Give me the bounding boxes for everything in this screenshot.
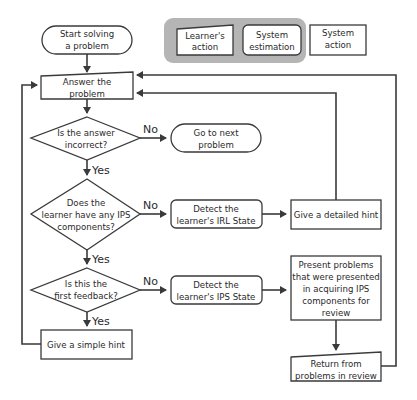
flowchart: Learner's action System estimation Start…: [0, 0, 417, 400]
svg-text:Answer the: Answer the: [63, 77, 112, 87]
node-label: Does the: [67, 198, 105, 208]
edge-label-no: No: [143, 275, 158, 288]
legend-label: System: [256, 30, 288, 40]
node-label: problems in review: [295, 371, 377, 381]
edge-label-yes: Yes: [91, 253, 110, 266]
svg-text:Present problems: Present problems: [298, 260, 374, 270]
node-label: Is this the: [65, 279, 107, 289]
svg-text:learner have any IPS: learner have any IPS: [42, 210, 131, 220]
svg-text:Start solving: Start solving: [60, 29, 114, 39]
node-label: Go to next: [193, 128, 239, 138]
node-label: Give a detailed hint: [294, 210, 379, 220]
node-label: Answer the: [63, 77, 112, 87]
svg-text:learner's IRL State: learner's IRL State: [177, 216, 256, 226]
node-q-incorrect: Is the answer incorrect?: [31, 117, 140, 160]
edge-label-no: No: [143, 123, 158, 136]
node-label: learner's IRL State: [177, 216, 256, 226]
node-label: components?: [57, 222, 115, 232]
node-q-first: Is this the first feedback?: [31, 268, 140, 312]
svg-text:problems in review: problems in review: [295, 371, 377, 381]
svg-text:Go to next: Go to next: [193, 128, 239, 138]
node-label: problem: [198, 140, 234, 150]
svg-text:learner's IPS State: learner's IPS State: [177, 292, 256, 302]
svg-text:Does the: Does the: [67, 198, 105, 208]
svg-text:Is the answer: Is the answer: [57, 128, 115, 138]
svg-text:Give a detailed hint: Give a detailed hint: [294, 210, 379, 220]
node-label: Give a simple hint: [47, 340, 126, 350]
svg-text:Return from: Return from: [310, 359, 361, 369]
svg-text:incorrect?: incorrect?: [65, 140, 108, 150]
edge-label-yes: Yes: [91, 315, 110, 328]
svg-text:problem: problem: [198, 140, 234, 150]
legend-label: action: [192, 42, 218, 52]
node-label: review: [322, 308, 350, 318]
node-q-ips: Does the learner have any IPS components…: [31, 179, 140, 250]
node-answer: Answer the problem: [41, 72, 133, 99]
edge-label-yes: Yes: [91, 164, 110, 177]
node-detect-ips: Detect the learner's IPS State: [171, 276, 262, 304]
node-start: Start solving a problem: [42, 26, 132, 54]
svg-text:a problem: a problem: [65, 41, 109, 51]
node-label: that were presented: [292, 272, 379, 282]
legend-system-action-label: System action: [310, 27, 366, 51]
svg-text:Is this the: Is this the: [65, 279, 107, 289]
svg-text:Give a simple hint: Give a simple hint: [47, 340, 126, 350]
node-label: Detect the: [193, 204, 239, 214]
node-label: learner have any IPS: [42, 210, 131, 220]
svg-text:that were presented: that were presented: [292, 272, 379, 282]
legend-system-estimation: System estimation: [243, 25, 301, 55]
node-label: in acquiring IPS: [303, 284, 370, 294]
node-label: components for: [302, 296, 370, 306]
node-label: problem: [69, 89, 105, 99]
node-next-problem: Go to next problem: [171, 124, 261, 152]
node-present-review: Present problems that were presented in …: [291, 256, 381, 320]
node-label: first feedback?: [54, 291, 118, 301]
svg-text:problem: problem: [69, 89, 105, 99]
svg-text:estimation: estimation: [249, 42, 295, 52]
node-detect-irl: Detect the learner's IRL State: [171, 200, 262, 228]
node-label: Return from: [310, 359, 361, 369]
svg-text:components for: components for: [302, 296, 370, 306]
svg-text:first feedback?: first feedback?: [54, 291, 118, 301]
node-label: a problem: [65, 41, 109, 51]
node-detailed-hint: Give a detailed hint: [291, 200, 381, 229]
svg-text:in acquiring IPS: in acquiring IPS: [303, 284, 370, 294]
node-label: Present problems: [298, 260, 374, 270]
node-label: Start solving: [60, 29, 114, 39]
node-label: incorrect?: [65, 140, 108, 150]
legend-learners-action: Learner's action: [177, 25, 233, 55]
node-return-review: Return from problems in review: [291, 352, 381, 381]
legend-label: estimation: [249, 42, 295, 52]
svg-text:action: action: [192, 42, 218, 52]
svg-text:review: review: [322, 308, 350, 318]
edge-label-no: No: [143, 199, 158, 212]
svg-text:Detect the: Detect the: [193, 280, 239, 290]
legend-label: System: [310, 27, 366, 39]
svg-text:Detect the: Detect the: [193, 204, 239, 214]
node-label: Detect the: [193, 280, 239, 290]
legend-label: Learner's: [185, 31, 225, 41]
svg-text:System: System: [256, 30, 288, 40]
svg-text:Learner's: Learner's: [185, 31, 225, 41]
node-label: Is the answer: [57, 128, 115, 138]
node-label: learner's IPS State: [177, 292, 256, 302]
node-simple-hint: Give a simple hint: [41, 330, 132, 359]
legend-label: action: [310, 39, 366, 51]
svg-text:components?: components?: [57, 222, 115, 232]
